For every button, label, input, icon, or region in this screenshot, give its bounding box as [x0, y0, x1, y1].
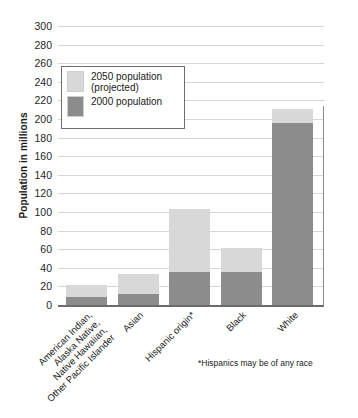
y-tick-label-60: 60: [40, 244, 52, 255]
y-tick-label-140: 140: [34, 170, 52, 181]
bar-segment-base: [118, 294, 159, 305]
chart-legend: 2050 population (projected) 2000 populat…: [61, 66, 185, 129]
bar-segment-base: [169, 272, 210, 305]
y-tick-label-120: 120: [34, 188, 52, 199]
legend-label-projected: 2050 population (projected): [91, 71, 162, 93]
bar-group: [169, 209, 210, 305]
y-tick-label-300: 300: [34, 21, 52, 32]
bar-segment-base: [66, 297, 107, 305]
legend-label-projected-line1: 2050 population: [91, 71, 162, 82]
legend-label-projected-line2: (projected): [91, 82, 162, 93]
y-axis-title: Population in millions: [18, 81, 29, 251]
y-tick-label-260: 260: [34, 58, 52, 69]
legend-label-base-line1: 2000 population: [91, 96, 162, 107]
plot-right-border: [323, 106, 324, 306]
bar-group: [66, 285, 107, 305]
bar-group: [272, 109, 313, 305]
y-tick-label-180: 180: [34, 132, 52, 143]
y-tick-label-200: 200: [34, 114, 52, 125]
y-tick-label-80: 80: [40, 225, 52, 236]
y-tick-label-240: 240: [34, 77, 52, 88]
legend-label-base: 2000 population: [91, 96, 162, 107]
y-tick-label-20: 20: [40, 281, 52, 292]
bar-group: [221, 248, 262, 305]
y-tick-label-160: 160: [34, 151, 52, 162]
legend-item-base: 2000 population: [67, 96, 179, 117]
gridline-280: [58, 45, 324, 46]
chart-footnote: *Hispanics may be of any race: [198, 358, 313, 368]
legend-item-projected: 2050 population (projected): [67, 71, 179, 93]
gridline-300: [58, 26, 324, 27]
y-tick-label-40: 40: [40, 263, 52, 274]
gridline-260: [58, 63, 324, 64]
gridline-0: [58, 305, 324, 307]
y-tick-label-280: 280: [34, 39, 52, 50]
legend-swatch-base-icon: [67, 96, 84, 117]
y-tick-label-220: 220: [34, 95, 52, 106]
y-tick-label-0: 0: [46, 300, 52, 311]
y-tick-label-100: 100: [34, 207, 52, 218]
bar-group: [118, 274, 159, 305]
legend-swatch-projected-icon: [67, 71, 84, 92]
bar-segment-base: [272, 123, 313, 305]
bar-segment-base: [221, 272, 262, 305]
population-stacked-bar-chart: Population in millions 30028026024022020…: [0, 0, 358, 418]
